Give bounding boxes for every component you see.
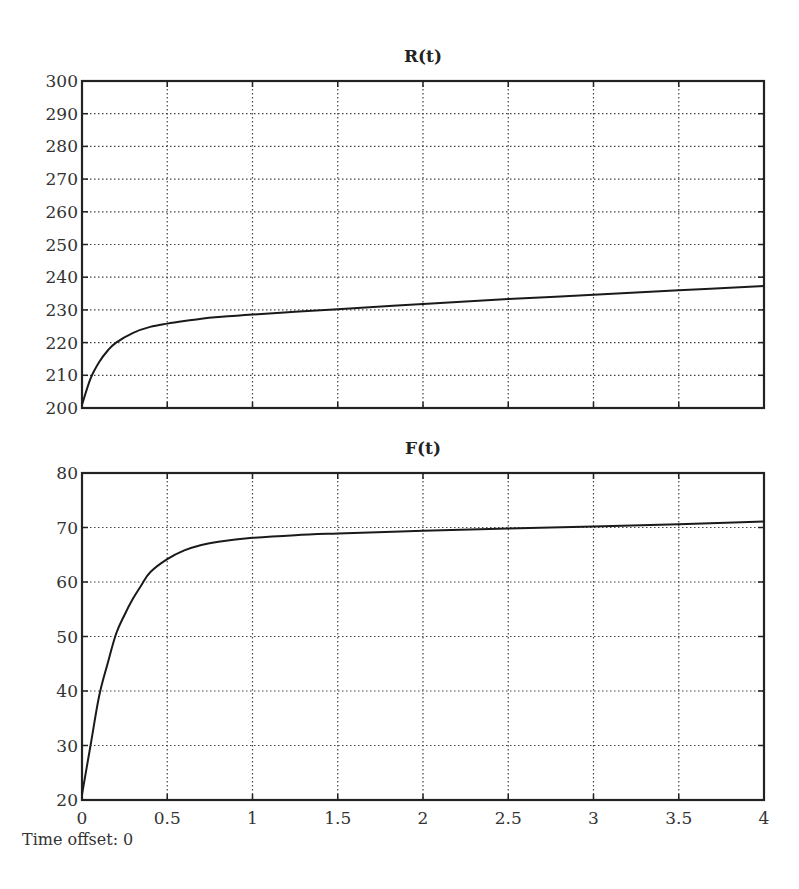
f-chart-panel: 00.511.522.533.5420304050607080F(t)	[56, 438, 769, 828]
y-tick-label: 200	[46, 398, 78, 418]
y-tick-label: 50	[56, 627, 78, 647]
y-tick-label: 230	[46, 300, 78, 320]
y-tick-label: 210	[46, 365, 78, 385]
x-tick-label: 2	[418, 808, 429, 828]
y-tick-label: 240	[46, 267, 78, 287]
y-tick-label: 260	[46, 202, 78, 222]
y-tick-label: 30	[56, 736, 78, 756]
x-tick-label: 2.5	[495, 808, 522, 828]
y-tick-label: 60	[56, 572, 78, 592]
x-tick-label: 0.5	[154, 808, 181, 828]
y-tick-label: 250	[46, 235, 78, 255]
chart-canvas: 200210220230240250260270280290300R(t)00.…	[0, 0, 799, 889]
x-tick-label: 4	[759, 808, 770, 828]
time-offset-label: Time offset: 0	[22, 830, 133, 849]
y-tick-label: 280	[46, 136, 78, 156]
x-tick-label: 1	[247, 808, 258, 828]
x-tick-label: 3	[588, 808, 599, 828]
x-tick-label: 1.5	[324, 808, 351, 828]
y-tick-label: 40	[56, 681, 78, 701]
y-tick-label: 300	[46, 71, 78, 91]
y-tick-label: 20	[56, 790, 78, 810]
y-tick-label: 290	[46, 104, 78, 124]
y-tick-label: 80	[56, 463, 78, 483]
y-tick-label: 70	[56, 518, 78, 538]
y-tick-label: 220	[46, 333, 78, 353]
r-chart-panel: 200210220230240250260270280290300R(t)	[46, 46, 764, 418]
x-tick-label: 3.5	[665, 808, 692, 828]
chart-title: F(t)	[405, 438, 441, 458]
y-tick-label: 270	[46, 169, 78, 189]
chart-title: R(t)	[404, 46, 442, 66]
x-tick-label: 0	[77, 808, 88, 828]
